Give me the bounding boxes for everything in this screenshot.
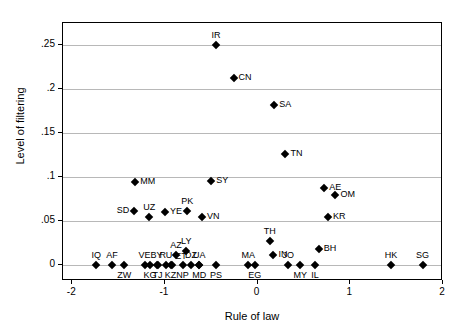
diamond-marker-icon xyxy=(265,237,273,245)
data-point-label: IL xyxy=(311,271,319,280)
data-point-label: SA xyxy=(279,100,291,109)
x-tick-mark xyxy=(349,280,350,284)
y-tick-label: 0 xyxy=(49,258,55,269)
diamond-marker-icon xyxy=(311,261,319,269)
diamond-marker-icon xyxy=(212,261,220,269)
diamond-marker-icon xyxy=(198,212,206,220)
gridline xyxy=(63,89,441,90)
diamond-marker-icon xyxy=(212,41,220,49)
diamond-marker-icon xyxy=(315,245,323,253)
diamond-marker-icon xyxy=(229,74,237,82)
y-tick-mark xyxy=(58,176,62,177)
diamond-marker-icon xyxy=(130,206,138,214)
gridline xyxy=(63,133,441,134)
data-point-label: UA xyxy=(193,251,206,260)
data-point-label: SD xyxy=(117,206,130,215)
y-tick-mark xyxy=(58,220,62,221)
data-point-label: ZW xyxy=(117,271,131,280)
y-tick-label: .25 xyxy=(41,38,55,49)
plot-area: IRCNSATNMMSYAEOMSDUZYEPKVNKRTHBHINAZLYIQ… xyxy=(62,22,442,280)
x-tick-label: 0 xyxy=(237,286,277,297)
data-point-label: OM xyxy=(340,190,355,199)
data-point-label: TN xyxy=(290,149,302,158)
diamond-marker-icon xyxy=(108,261,116,269)
data-point-label: SY xyxy=(216,176,228,185)
data-point-label: HK xyxy=(385,251,398,260)
data-point-label: TH xyxy=(264,227,276,236)
x-tick-label: 2 xyxy=(422,286,462,297)
data-point-label: PS xyxy=(210,271,222,280)
x-tick-mark xyxy=(257,280,258,284)
y-tick-label: .05 xyxy=(41,214,55,225)
y-tick-mark xyxy=(58,88,62,89)
data-point-label: MM xyxy=(140,177,155,186)
x-tick-mark xyxy=(442,280,443,284)
x-tick-label: 1 xyxy=(329,286,369,297)
data-point-label: MY xyxy=(294,271,308,280)
gridline xyxy=(63,45,441,46)
data-point-label: JO xyxy=(282,251,294,260)
data-point-label: EG xyxy=(248,271,261,280)
diamond-marker-icon xyxy=(120,261,128,269)
data-point-label: SG xyxy=(416,251,429,260)
data-point-label: YE xyxy=(170,207,182,216)
diamond-marker-icon xyxy=(269,250,277,258)
diamond-marker-icon xyxy=(178,261,186,269)
y-tick-label: .15 xyxy=(41,126,55,137)
gridline xyxy=(63,177,441,178)
scatter-chart: IRCNSATNMMSYAEOMSDUZYEPKVNKRTHBHINAZLYIQ… xyxy=(0,0,475,333)
data-point-label: UZ xyxy=(143,203,155,212)
diamond-marker-icon xyxy=(296,261,304,269)
data-point-label: PK xyxy=(181,197,193,206)
diamond-marker-icon xyxy=(131,178,139,186)
data-point-label: RU xyxy=(159,251,172,260)
diamond-marker-icon xyxy=(92,261,100,269)
data-point-label: BH xyxy=(324,244,337,253)
y-axis-label: Level of filtering xyxy=(14,46,26,206)
data-point-label: MD xyxy=(192,271,206,280)
diamond-marker-icon xyxy=(387,261,395,269)
data-point-label: TJ xyxy=(153,271,163,280)
diamond-marker-icon xyxy=(183,206,191,214)
x-tick-mark xyxy=(164,280,165,284)
diamond-marker-icon xyxy=(145,212,153,220)
diamond-marker-icon xyxy=(284,261,292,269)
diamond-marker-icon xyxy=(320,183,328,191)
data-point-label: AZ xyxy=(170,241,182,250)
diamond-marker-icon xyxy=(207,177,215,185)
diamond-marker-icon xyxy=(251,261,259,269)
x-tick-label: -2 xyxy=(51,286,91,297)
x-tick-mark xyxy=(71,280,72,284)
diamond-marker-icon xyxy=(324,212,332,220)
y-tick-mark xyxy=(58,264,62,265)
y-tick-mark xyxy=(58,44,62,45)
data-point-label: VN xyxy=(207,212,220,221)
data-point-label: AF xyxy=(106,251,118,260)
diamond-marker-icon xyxy=(161,208,169,216)
data-point-label: KR xyxy=(333,212,346,221)
data-point-label: NP xyxy=(176,271,189,280)
data-point-label: LY xyxy=(181,237,191,246)
y-tick-label: .1 xyxy=(47,170,55,181)
data-point-label: KZ xyxy=(165,271,177,280)
diamond-marker-icon xyxy=(270,101,278,109)
data-point-label: VE xyxy=(139,251,151,260)
diamond-marker-icon xyxy=(187,261,195,269)
diamond-marker-icon xyxy=(331,190,339,198)
diamond-marker-icon xyxy=(195,261,203,269)
y-tick-mark xyxy=(58,132,62,133)
data-point-label: MA xyxy=(242,251,256,260)
diamond-marker-icon xyxy=(281,150,289,158)
data-point-label: IQ xyxy=(92,251,102,260)
data-point-label: CN xyxy=(239,73,252,82)
data-point-label: IR xyxy=(211,31,220,40)
gridline xyxy=(63,221,441,222)
diamond-marker-icon xyxy=(418,261,426,269)
x-tick-label: -1 xyxy=(144,286,184,297)
y-tick-label: .2 xyxy=(47,82,55,93)
x-axis-label: Rule of law xyxy=(62,310,442,322)
